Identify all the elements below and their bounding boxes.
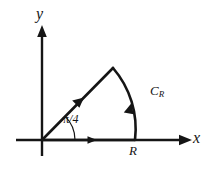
- x-axis-label: x: [193, 130, 200, 146]
- y-axis-label: y: [36, 6, 43, 22]
- angle-fraction-text: /4: [69, 112, 78, 126]
- base-direction-arrowhead-icon: [88, 136, 98, 144]
- arc-label: CR: [150, 84, 164, 99]
- contour-figure: y x R π/4 CR: [0, 0, 213, 178]
- arc-label-subscript: R: [159, 89, 165, 99]
- radius-label: R: [129, 144, 137, 157]
- angle-label: π/4: [63, 113, 78, 125]
- contour-diagram-svg: [0, 0, 213, 178]
- contour-arc-segment: [113, 68, 136, 140]
- x-axis-arrowhead-icon: [179, 135, 192, 145]
- y-axis-arrowhead-icon: [37, 25, 47, 37]
- arc-label-base: C: [150, 83, 159, 98]
